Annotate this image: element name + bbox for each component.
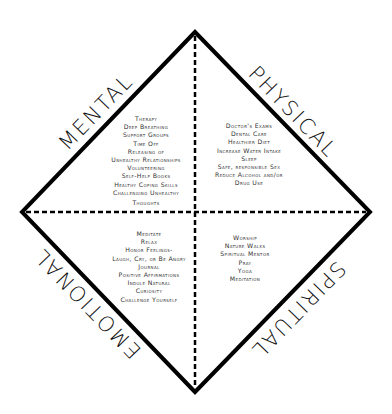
list-item: Journal [102, 263, 196, 271]
emotional-items-list: Meditate Relax Honor Feelings- Laugh, Cr… [102, 230, 196, 304]
list-item: Meditation [210, 275, 280, 283]
list-item: Thoughts [96, 199, 196, 207]
list-item: Positive Affirmations [102, 271, 196, 279]
list-item: Indule Natural [102, 279, 196, 287]
list-item: Time Off [96, 140, 196, 148]
list-item: Healthier Diet [200, 138, 298, 146]
list-item: Curiosity [102, 287, 196, 295]
physical-items-list: Doctor's Exams Dental Care Healthier Die… [200, 122, 298, 188]
list-item: Dental Care [200, 130, 298, 138]
list-item: Healthy Coping Skills [96, 181, 196, 189]
list-item: Challenging Unhealthy [96, 189, 196, 197]
list-item: Challenge Yourself [102, 296, 196, 304]
mental-items-list: Therapy Deep Breathing Support Groups Ti… [96, 115, 196, 207]
list-item: Honor Feelings- [102, 246, 196, 254]
list-item: Pray [210, 259, 280, 267]
list-item: Reduce Alcohol and/or [200, 171, 298, 179]
list-item: Spiritual Mentor [210, 250, 280, 258]
list-item: Releasing of [96, 148, 196, 156]
list-item: Volunteering [96, 164, 196, 172]
list-item: Drug Use [200, 179, 298, 187]
list-item: Nature Walks [210, 242, 280, 250]
list-item: Deep Breathing [96, 123, 196, 131]
list-item: Meditate [102, 230, 196, 238]
list-item: Yoga [210, 267, 280, 275]
list-item: Laugh, Cry, or Be Angry [102, 255, 196, 263]
list-item: Therapy [96, 115, 196, 123]
list-item: Self-Help Books [96, 172, 196, 180]
spiritual-items-list: Worship Nature Walks Spiritual Mentor Pr… [210, 234, 280, 283]
wellness-diamond [0, 0, 392, 414]
list-item: Worship [210, 234, 280, 242]
list-item: Support Groups [96, 131, 196, 139]
list-item: Unhealthy Relationships [96, 156, 196, 164]
list-item: Doctor's Exams [200, 122, 298, 130]
list-item: Safe, responsible Sex [200, 163, 298, 171]
list-item: Relax [102, 238, 196, 246]
list-item: Sleep [200, 155, 298, 163]
list-item: Increase Water Intake [200, 147, 298, 155]
